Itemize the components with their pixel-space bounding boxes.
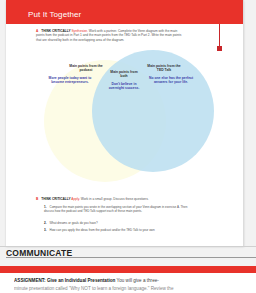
assignment-lead: ASSIGNMENT: Give an Individual Presentat…: [14, 278, 115, 283]
page-tab-marker-line: [219, 24, 220, 46]
venn-label-ted-talk: Main points from the TED Talk: [144, 64, 184, 72]
assignment-body: You will give a three-: [117, 278, 159, 283]
question-number: 2.: [44, 221, 47, 225]
exercise-instructions: Work in a small group. Discuss these que…: [81, 197, 149, 201]
question-2: 2.What dreams or goals do you have?: [44, 221, 194, 225]
exercise-letter: B: [36, 197, 38, 201]
exercise-label: THINK CRITICALLY: [41, 197, 70, 201]
page-tab-marker-icon: [217, 46, 222, 51]
page-edge: [243, 0, 244, 246]
exercise-label: THINK CRITICALLY: [41, 29, 70, 33]
venn-text-ted-talk: No one else has the perfect answers for …: [148, 76, 194, 84]
assignment-band: [0, 266, 256, 273]
exercise-b: BTHINK CRITICALLY Apply. Work in a small…: [36, 197, 186, 201]
page-divider: [0, 246, 256, 247]
question-text: Compare the main points you wrote in the…: [44, 205, 187, 213]
venn-text-both: Don't believe in overnight success.: [106, 82, 142, 90]
venn-text-podcast: More people today want to become entrepr…: [48, 76, 92, 84]
question-1: 1.Compare the main points you wrote in t…: [44, 205, 194, 213]
question-text: What dreams or goals do you have?: [50, 221, 98, 225]
exercise-skill: Apply.: [71, 197, 80, 201]
venn-label-podcast: Main points from the podcast: [66, 64, 106, 72]
section-title: Put It Together: [28, 10, 81, 19]
textbook-page: Put It Together ATHINK CRITICALLY Synthe…: [6, 0, 244, 246]
section-header-band: Put It Together: [6, 0, 244, 24]
assignment-text-line-2: minute presentation called "Why NOT to l…: [14, 286, 250, 292]
question-number: 3.: [44, 228, 47, 232]
heading-rule: [6, 257, 256, 258]
exercise-skill: Synthesize.: [71, 29, 87, 33]
question-3: 3.How can you apply the ideas from the p…: [44, 228, 194, 232]
assignment-text: ASSIGNMENT: Give an Individual Presentat…: [14, 278, 250, 284]
exercise-a: ATHINK CRITICALLY Synthesize. Work with …: [36, 29, 186, 42]
question-text: How can you apply the ideas from the pod…: [50, 228, 155, 232]
exercise-letter: A: [36, 29, 38, 33]
venn-label-both: Main points from both: [108, 70, 140, 78]
venn-diagram: Main points from the podcast Main points…: [44, 58, 214, 183]
